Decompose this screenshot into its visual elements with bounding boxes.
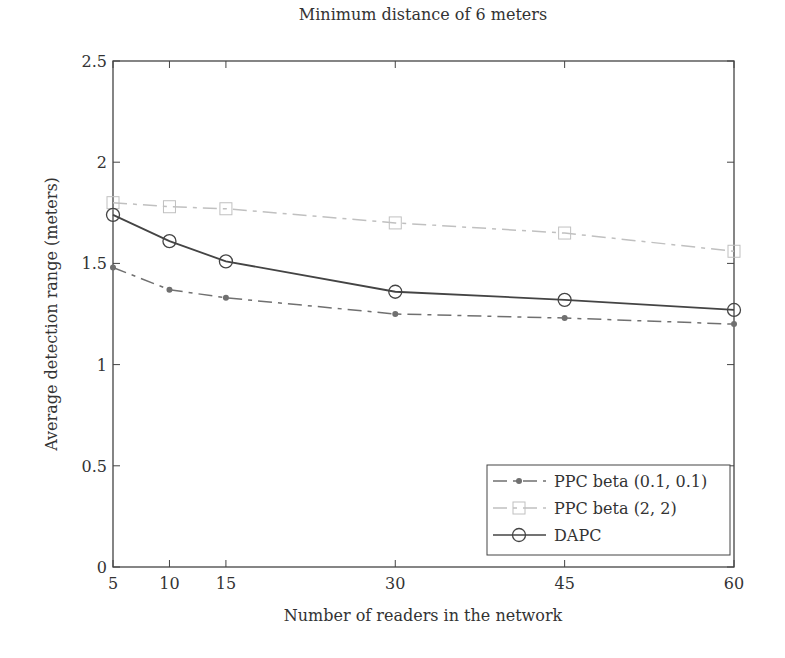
series-ppc-beta-2-2- [107,197,740,258]
dot-marker [392,311,398,317]
x-tick-label: 10 [159,574,179,593]
line-chart: Minimum distance of 6 meters 51015304560… [0,0,785,658]
chart-title: Minimum distance of 6 meters [299,5,547,24]
y-tick-label: 2.5 [82,52,107,71]
y-tick-label: 2 [97,153,107,172]
series-group [107,197,741,327]
x-tick-label: 45 [554,574,574,593]
x-tick-label: 60 [724,574,744,593]
y-tick-label: 1.5 [82,254,107,273]
x-axis-label: Number of readers in the network [284,606,563,625]
legend-label: PPC beta (0.1, 0.1) [554,472,707,491]
y-tick-label: 0 [97,558,107,577]
y-tick-label: 0.5 [82,457,107,476]
x-tick-label: 30 [385,574,405,593]
x-tick-label: 5 [108,574,118,593]
dot-marker [166,287,172,293]
y-tick-label: 1 [97,356,107,375]
y-axis-label: Average detection range (meters) [42,177,61,452]
x-tick-label: 15 [216,574,236,593]
legend-label: PPC beta (2, 2) [554,499,677,518]
dot-marker [516,478,522,484]
dot-marker [731,321,737,327]
legend: PPC beta (0.1, 0.1)PPC beta (2, 2)DAPC [487,465,730,555]
series-ppc-beta-0-1-0-1- [110,264,737,327]
legend-label: DAPC [554,526,601,545]
dot-marker [562,315,568,321]
dot-marker [223,295,229,301]
dot-marker [110,264,116,270]
